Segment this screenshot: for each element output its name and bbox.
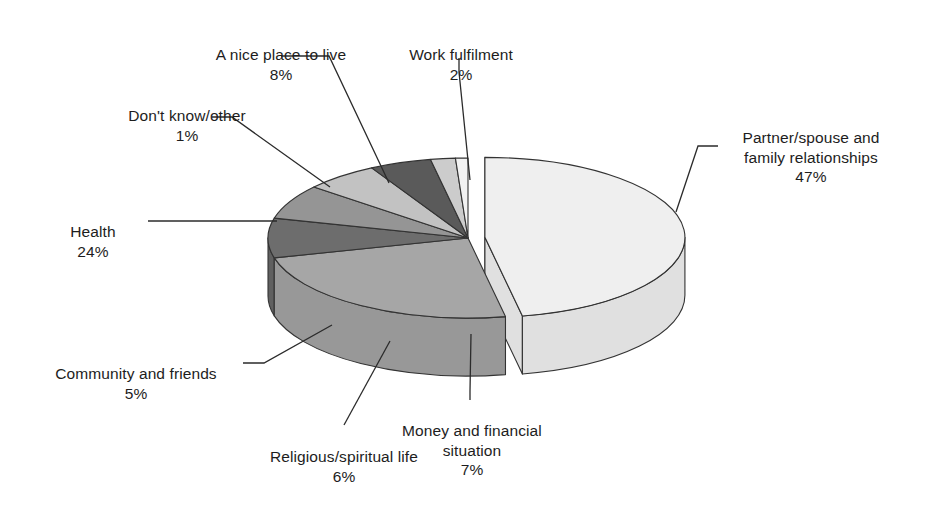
label-money-text: Money and financial situation (402, 422, 542, 459)
label-health: Health 24% (38, 202, 148, 281)
label-nice-place-text: A nice place to live (216, 46, 346, 63)
label-work-text: Work fulfilment (409, 46, 513, 63)
label-money: Money and financial situation 7% (380, 401, 564, 500)
label-community: Community and friends 5% (28, 344, 244, 423)
label-health-pct: 24% (38, 242, 148, 262)
pie-group (268, 157, 685, 376)
pie-chart-figure: A nice place to live 8% Work fulfilment … (0, 0, 928, 521)
label-partner-text: Partner/spouse and family relationships (742, 129, 879, 166)
label-work: Work fulfilment 2% (366, 25, 556, 104)
label-nice-place-pct: 8% (176, 65, 386, 85)
label-community-text: Community and friends (55, 365, 216, 382)
label-partner-pct: 47% (706, 167, 916, 187)
label-work-pct: 2% (366, 65, 556, 85)
label-dontknow-pct: 1% (92, 126, 282, 146)
label-money-pct: 7% (380, 460, 564, 480)
label-dontknow-text: Don't know/other (128, 107, 245, 124)
label-community-pct: 5% (28, 384, 244, 404)
label-partner: Partner/spouse and family relationships … (706, 108, 916, 207)
label-dontknow: Don't know/other 1% (92, 86, 282, 165)
label-health-text: Health (70, 223, 115, 240)
